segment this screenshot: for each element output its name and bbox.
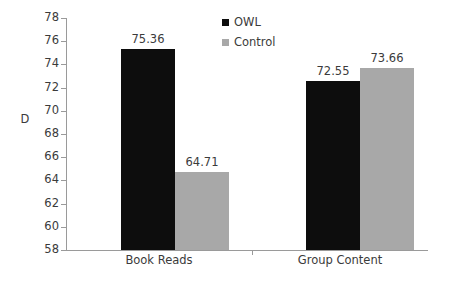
bar-value-label: 73.66 [352,51,422,65]
bar-value-label: 72.55 [298,64,368,78]
legend-label-control: Control [234,36,276,49]
bar-value-label: 64.71 [167,155,237,169]
y-axis-tick-mark [61,88,66,89]
y-axis-tick-mark [61,111,66,112]
y-axis-tick-mark [61,204,66,205]
legend-item-control[interactable]: Control [222,34,276,50]
bar-control-group-content[interactable] [360,68,414,250]
legend-label-owl: OWL [234,16,261,29]
y-axis-tick-label: 58 [44,242,59,257]
y-axis-title: D [10,112,40,126]
chart-legend: OWL Control [222,14,276,54]
y-axis-tick-label: 64 [44,172,59,187]
category-label-group-content: Group Content [252,253,428,268]
y-axis-tick-label: 76 [44,33,59,48]
legend-swatch-owl [222,19,229,26]
y-axis-tick-mark [61,134,66,135]
y-axis-tick-label: 60 [44,219,59,234]
bar-owl-group-content[interactable] [306,81,360,250]
bar-control-book-reads[interactable] [175,172,229,250]
y-axis-tick-mark [61,180,66,181]
legend-swatch-control [222,39,229,46]
bar-value-label: 75.36 [113,32,183,46]
y-axis-tick-label: 68 [44,126,59,141]
y-axis-tick-label: 72 [44,80,59,95]
y-axis-tick-label: 70 [44,103,59,118]
y-axis-tick-label: 66 [44,149,59,164]
y-axis-tick-mark [61,64,66,65]
y-axis-tick-mark [61,18,66,19]
y-axis-tick-mark [61,250,66,251]
legend-item-owl[interactable]: OWL [222,14,276,30]
y-axis-tick-mark [61,227,66,228]
y-axis-tick-mark [61,41,66,42]
y-axis-tick-label: 78 [44,10,59,25]
bar-chart: D 7876747270686664626058 75.3664.7172.55… [0,0,451,283]
x-axis-line [66,250,428,251]
y-axis-line [66,18,67,250]
bar-owl-book-reads[interactable] [121,49,175,250]
category-label-book-reads: Book Reads [66,253,252,268]
y-axis-tick-label: 74 [44,56,59,71]
y-axis-tick-mark [61,157,66,158]
y-axis-tick-label: 62 [44,196,59,211]
